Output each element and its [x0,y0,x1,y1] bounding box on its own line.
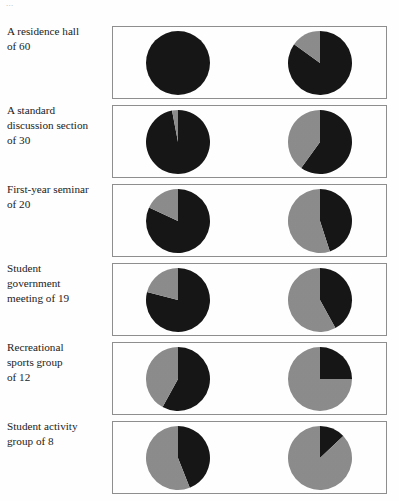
pie-chart-left [145,267,211,333]
pie-panel [112,105,387,178]
pie-slot-right [287,188,353,254]
pie-panel [112,263,387,336]
row-label: A residence hallof 60 [7,24,111,54]
pie-slot-right [287,346,353,412]
chart-row: A standarddiscussion sectionof 30 [0,99,399,177]
row-label-line: of 20 [7,197,111,212]
pie-panel [112,184,387,257]
row-label-line: meeting of 19 [7,291,111,306]
pie-chart-left [145,425,211,491]
row-label: A standarddiscussion sectionof 30 [7,103,111,149]
chart-row: A residence hallof 60 [0,20,399,98]
row-label-line: of 60 [7,39,111,54]
pie-chart-left [145,30,211,96]
chart-row-list: A residence hallof 60A standarddiscussio… [0,20,399,493]
pie-slot-right [287,425,353,491]
row-label: Recreationalsports groupof 12 [7,340,111,386]
row-label: Studentgovernmentmeeting of 19 [7,261,111,307]
row-label-line: discussion section [7,118,111,133]
pie-chart-right [287,346,353,412]
pie-slice-black [146,31,210,95]
pie-slot-right [287,109,353,175]
pie-chart-right [287,267,353,333]
row-label-line: First-year seminar [7,182,111,197]
pie-slot-left [145,425,211,491]
row-label-line: of 12 [7,370,111,385]
pie-slot-left [145,267,211,333]
pie-chart-left [145,109,211,175]
pie-chart-left [145,188,211,254]
clipped-header-text: ... [6,0,66,7]
row-label: First-year seminarof 20 [7,182,111,212]
pie-chart-right [287,188,353,254]
chart-row: Student activitygroup of 8 [0,415,399,493]
row-label: Student activitygroup of 8 [7,419,111,449]
row-label-line: of 30 [7,133,111,148]
row-label-line: Student [7,261,111,276]
pie-slot-left [145,30,211,96]
chart-row: Studentgovernmentmeeting of 19 [0,257,399,335]
row-label-line: group of 8 [7,434,111,449]
row-label-line: government [7,276,111,291]
row-label-line: sports group [7,355,111,370]
pie-chart-right [287,109,353,175]
row-label-line: Recreational [7,340,111,355]
row-label-line: A residence hall [7,24,111,39]
pie-slot-left [145,109,211,175]
pie-chart-figure: ... A residence hallof 60A standarddiscu… [0,0,399,501]
row-label-line: Student activity [7,419,111,434]
chart-row: Recreationalsports groupof 12 [0,336,399,414]
pie-slice-black [146,110,210,174]
pie-slot-left [145,346,211,412]
row-label-line: A standard [7,103,111,118]
pie-chart-right [287,425,353,491]
pie-panel [112,421,387,494]
pie-slice-black [320,347,352,379]
pie-slot-right [287,30,353,96]
pie-panel [112,342,387,415]
pie-panel [112,26,387,99]
pie-slot-left [145,188,211,254]
pie-chart-left [145,346,211,412]
pie-slot-right [287,267,353,333]
pie-chart-right [287,30,353,96]
chart-row: First-year seminarof 20 [0,178,399,256]
